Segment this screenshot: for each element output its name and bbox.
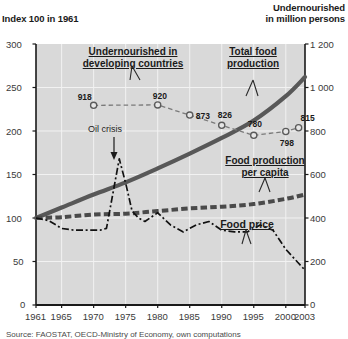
right-tick-200: 200 [310,256,326,267]
right-tick-1200: 1 200 [310,39,334,50]
right-tick-1000: 1 000 [310,82,334,93]
left-tick-300: 300 [6,39,22,50]
left-tick-200: 200 [6,126,22,137]
annotation-undernourished: Undernourished in developing countries [70,46,196,69]
left-tick-150: 150 [6,169,22,180]
point-label-920: 920 [153,91,167,101]
left-tick-0: 0 [20,299,25,310]
x-tick-1961: 1961 [25,311,46,322]
annotation-total-food-line1: Total food [229,46,277,57]
point-label-798: 798 [280,138,294,148]
x-tick-1980: 1980 [147,311,168,322]
x-tick-1990: 1990 [211,311,232,322]
x-tick-1965: 1965 [51,311,72,322]
x-tick-2000: 2000 [275,311,296,322]
point-label-918: 918 [78,92,92,102]
point-label-780: 780 [248,119,262,129]
left-tick-100: 100 [6,213,22,224]
left-tick-50: 50 [13,256,24,267]
annotation-total-food-production: Total food production [213,46,293,69]
annotation-total-food-line2: production [227,58,279,69]
annotation-oil-crisis: Oil crisis [88,124,122,134]
right-tick-800: 800 [310,126,326,137]
annotation-food-price: Food price [212,219,282,231]
point-label-826: 826 [218,110,232,120]
source-note: Source: FAOSTAT, OECD-Ministry of Econom… [6,330,346,339]
annotation-undernourished-line1: Undernourished in [89,46,178,57]
annotation-undernourished-line2: developing countries [83,58,184,69]
point-label-873: 873 [196,111,210,121]
left-tick-250: 250 [6,82,22,93]
x-tick-2003: 2003 [294,311,315,322]
annotation-per-capita-line2: per capita [241,167,288,178]
annotation-per-capita-line1: Food production [225,155,304,166]
x-tick-1970: 1970 [83,311,104,322]
x-tick-1975: 1975 [115,311,136,322]
point-label-815: 815 [301,113,315,123]
right-tick-0: 0 [310,299,315,310]
x-tick-1985: 1985 [179,311,200,322]
annotation-food-production-per-capita: Food production per capita [204,155,326,178]
x-tick-1995: 1995 [243,311,264,322]
right-tick-400: 400 [310,213,326,224]
